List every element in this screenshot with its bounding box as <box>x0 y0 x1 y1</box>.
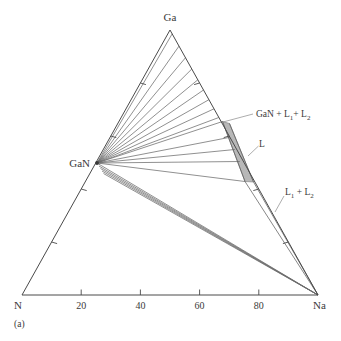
vertex-label-n: N <box>14 299 22 311</box>
two-liquid-boundary-lines <box>245 182 318 296</box>
figure-caption: (a) <box>14 319 25 330</box>
tie-line-fan-lower <box>97 163 318 295</box>
axis-ticks <box>52 83 289 295</box>
tick-label-20: 20 <box>76 300 86 311</box>
gan-point-marker <box>95 161 99 165</box>
phase-label-gan-l1-l2-plus: + L <box>293 109 307 119</box>
svg-text:L1 + L2: L1 + L2 <box>285 187 314 200</box>
phase-label-gan-l1-l2-main: GaN + L <box>256 109 290 119</box>
phase-label-l1-l2-plus: + L <box>294 187 310 197</box>
tick-label-60: 60 <box>195 300 205 311</box>
label-leader-lines <box>223 114 284 212</box>
phase-label-gan-l1-l2: GaN + L1+ L2 <box>256 109 311 122</box>
phase-label-l: L <box>259 139 265 149</box>
point-label-gan: GaN <box>69 157 90 169</box>
phase-diagram-svg: Ga N Na GaN 20 40 60 80 GaN + L1+ L2 L L… <box>0 0 341 341</box>
vertex-label-ga: Ga <box>164 11 177 23</box>
ternary-phase-diagram: Ga N Na GaN 20 40 60 80 GaN + L1+ L2 L L… <box>0 0 341 341</box>
phase-label-gan-l1-l2-sub2: 2 <box>307 114 311 122</box>
phase-label-l1-l2-sub2: 2 <box>310 192 314 200</box>
tie-line-fan-upper <box>97 34 245 182</box>
svg-text:GaN + L1+ L2: GaN + L1+ L2 <box>256 109 311 122</box>
vertex-label-na: Na <box>313 299 326 311</box>
tick-label-40: 40 <box>135 300 145 311</box>
phase-label-l1-l2: L1 + L2 <box>285 187 314 200</box>
tick-label-80: 80 <box>254 300 264 311</box>
